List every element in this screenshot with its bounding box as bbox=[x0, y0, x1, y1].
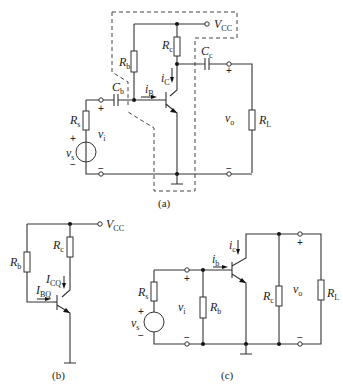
svg-text:vi: vi bbox=[178, 300, 186, 316]
svg-text:Cc: Cc bbox=[201, 44, 213, 60]
resistor-rb bbox=[200, 297, 206, 318]
caption-b: (b) bbox=[52, 369, 65, 382]
svg-text:vo: vo bbox=[293, 282, 302, 298]
svg-text:iC: iC bbox=[161, 71, 170, 87]
ground-icon bbox=[240, 344, 252, 354]
arrow-ic bbox=[170, 77, 174, 83]
svg-text:+: + bbox=[98, 103, 104, 114]
resistor-rs bbox=[83, 111, 89, 130]
svg-text:RL: RL bbox=[326, 286, 339, 302]
resistor-rc bbox=[67, 237, 73, 257]
svg-text:+: + bbox=[70, 133, 76, 144]
svg-text:Rc: Rc bbox=[52, 238, 64, 254]
svg-text:−: − bbox=[70, 159, 76, 170]
svg-text:−: − bbox=[297, 332, 303, 343]
svg-text:Rs: Rs bbox=[137, 285, 148, 301]
source-vs bbox=[144, 312, 164, 332]
svg-text:RL: RL bbox=[258, 113, 271, 129]
svg-text:VCC: VCC bbox=[214, 17, 232, 33]
svg-text:+: + bbox=[226, 65, 232, 76]
resistor-rl bbox=[318, 280, 324, 300]
svg-text:Rb: Rb bbox=[209, 300, 221, 316]
transistor-npn bbox=[134, 92, 177, 174]
svg-text:−: − bbox=[98, 163, 104, 174]
svg-text:Rb: Rb bbox=[118, 55, 130, 71]
svg-text:Rc: Rc bbox=[262, 289, 274, 305]
svg-text:−: − bbox=[184, 332, 190, 343]
resistor-rb bbox=[131, 51, 137, 72]
resistor-rs bbox=[151, 282, 157, 301]
arrow-ib bbox=[222, 265, 228, 269]
capacitor-cb bbox=[114, 94, 118, 106]
svg-text:VCC: VCC bbox=[106, 217, 124, 233]
caption-c: (c) bbox=[221, 369, 234, 382]
svg-text:Rs: Rs bbox=[69, 113, 80, 129]
svg-text:−: − bbox=[138, 330, 144, 341]
resistor-rc bbox=[276, 286, 282, 306]
svg-text:−: − bbox=[226, 163, 232, 174]
svg-text:+: + bbox=[184, 273, 190, 284]
svg-text:Rb: Rb bbox=[9, 255, 21, 271]
circuit-a: VCC Rb Rc Cb Cc iB iC Rs vs vi vo RL + +… bbox=[66, 12, 271, 210]
svg-text:vi: vi bbox=[98, 127, 106, 143]
ground-icon bbox=[171, 174, 183, 184]
ground-icon bbox=[64, 360, 76, 363]
circuit-b: VCC Rb Rc ICQ IBQ (b) bbox=[9, 217, 124, 382]
svg-text:vo: vo bbox=[225, 111, 234, 127]
caption-a: (a) bbox=[158, 197, 171, 210]
vcc-terminal bbox=[205, 22, 209, 26]
arrow-ic bbox=[236, 249, 240, 255]
transistor-npn bbox=[57, 295, 70, 360]
circuit-diagram: VCC Rb Rc Cb Cc iB iC Rs vs vi vo RL + +… bbox=[0, 0, 343, 385]
resistor-rc bbox=[174, 37, 180, 56]
svg-text:ic: ic bbox=[229, 238, 236, 254]
resistor-rb bbox=[24, 252, 30, 272]
arrow-icq bbox=[62, 283, 66, 289]
svg-text:ib: ib bbox=[212, 252, 219, 268]
circuit-c: ib ic Rs vs vi Rb Rc vo RL + + + − − − (… bbox=[131, 232, 339, 382]
svg-text:iB: iB bbox=[145, 82, 154, 98]
svg-text:+: + bbox=[297, 237, 303, 248]
svg-text:ICQ: ICQ bbox=[45, 272, 61, 288]
resistor-rl bbox=[249, 110, 255, 130]
svg-text:+: + bbox=[138, 306, 144, 317]
svg-text:Rc: Rc bbox=[161, 38, 173, 54]
svg-text:Cb: Cb bbox=[112, 80, 124, 96]
